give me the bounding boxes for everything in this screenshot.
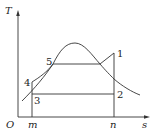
ts-diagram: T s O m n 1 2 3 4 5 [0, 0, 154, 139]
point-1-label: 1 [117, 48, 123, 59]
tick-m-label: m [28, 119, 37, 130]
s-axis-label: s [142, 119, 147, 130]
t-axis-label: T [5, 5, 13, 16]
t-axis-arrow-icon [16, 10, 20, 16]
point-2-label: 2 [117, 89, 123, 100]
origin-label: O [6, 119, 14, 130]
tick-n-label: n [110, 119, 116, 130]
point-4-label: 4 [24, 77, 30, 88]
point-3-label: 3 [34, 95, 40, 106]
point-5-label: 5 [46, 56, 52, 67]
line-superheat-1 [100, 53, 114, 64]
